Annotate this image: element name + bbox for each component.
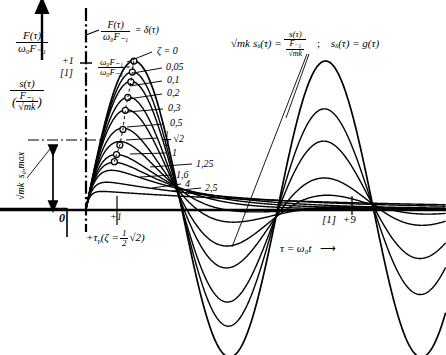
zeta-curve-label: 1,25 (196, 158, 214, 169)
delta-definition-rhs: = δ(τ) (135, 24, 159, 35)
bracket-unit-label: [1] (60, 68, 73, 78)
peak-time-label: +τp(ζ = 1 2 √2) (86, 229, 145, 249)
force-axis-label-den: ω₀F₋₁ (16, 43, 48, 55)
force-axis-label-num: F(τ) (16, 30, 48, 43)
title-leader-lines (232, 54, 309, 247)
max-amplitude-label: √mk s₀,max (16, 152, 26, 200)
displacement-axis-num: s(τ) (10, 78, 44, 91)
x-axis-label-text: τ = ω₀t (280, 242, 312, 254)
displacement-axis-den-den: √mk (16, 102, 37, 113)
unit-fraction-label: ω₀F₋₁ ω₀F₋₁ =1 (98, 58, 135, 78)
peak-time-frac-den: 2 (120, 239, 129, 248)
zeta-curve-label: 1 (172, 147, 177, 158)
axes (0, 8, 446, 237)
zeta-curve-label: 4 (185, 178, 190, 189)
unit-fraction-den: ω₀F₋₁ (98, 68, 125, 77)
zeta-curve-label: 0,1 (167, 74, 180, 85)
peak-time-tau: +τ (86, 231, 97, 243)
zeta-leader-line (133, 68, 162, 73)
right-title-frac-den: F₋₁ √mk (284, 40, 306, 58)
right-title-label: √mksδ(τ) = s(τ) F₋₁ √mk ; sδ(τ) = g(τ) (231, 30, 379, 58)
delta-definition-num: F(τ) (101, 20, 130, 32)
response-curve (86, 81, 446, 302)
delta-definition-den: ω₀F₋₁ (101, 32, 130, 43)
x-tick-nine-label: +9 (343, 213, 356, 225)
displacement-axis-label: s(τ) ( F₋₁ √mk ) (10, 78, 44, 113)
zeta-curve-label: 2,5 (205, 182, 218, 193)
right-title-rad: √mk (231, 37, 250, 49)
impulse-response-figure: F(τ) ω₀F₋₁ s(τ) ( F₋₁ √mk ) √mk s₀,max F… (0, 0, 446, 355)
impulse-response-plot (0, 0, 446, 355)
right-title-rhs-tail: (τ) = g(τ) (338, 37, 379, 49)
unit-fraction-rhs: =1 (125, 63, 134, 72)
x-axis-arrow-icon: ⟶ (320, 242, 336, 254)
zeta-leader-line (130, 153, 167, 154)
max-amplitude-rad: √mk (15, 183, 26, 200)
zeta-curve-label: 0,3 (168, 102, 181, 113)
right-title-sep: ; (317, 37, 320, 49)
delta-definition-label: F(τ) ω₀F₋₁ = δ(τ) (101, 20, 159, 42)
zeta-curve-label: ζ = 0 (157, 45, 178, 56)
zeta-curve-label: 0,05 (166, 61, 184, 72)
max-amplitude-sym: s₀,max (15, 152, 26, 179)
zeta-curve-label: 0,2 (167, 87, 180, 98)
peak-time-paren-close: ) (141, 231, 145, 243)
right-title-arg: (τ) = (260, 37, 281, 49)
x-tick-bracket-label: [1] (322, 213, 336, 225)
x-tick-plus-one-label: +1 (110, 212, 122, 222)
unit-impulse-tick-label: +1 (62, 56, 74, 66)
displacement-axis-den: ( F₋₁ √mk ) (10, 91, 44, 113)
x-axis-tick-group: [1] +9 (322, 214, 356, 225)
smax-leader-line (27, 149, 50, 178)
peak-time-paren-open: (ζ = (101, 231, 119, 243)
peak-time-rad: √2 (129, 231, 141, 243)
delta-leader-line (86, 30, 99, 35)
response-curves (86, 61, 446, 355)
zeta-curve-label: 0,5 (170, 117, 183, 128)
right-title-frac-den-den: √mk (286, 50, 304, 58)
force-axis-label: F(τ) ω₀F₋₁ (16, 30, 48, 54)
x-axis-label: τ = ω₀t ⟶ (280, 243, 336, 254)
response-curve (86, 182, 446, 209)
origin-label: 0 (59, 212, 65, 224)
